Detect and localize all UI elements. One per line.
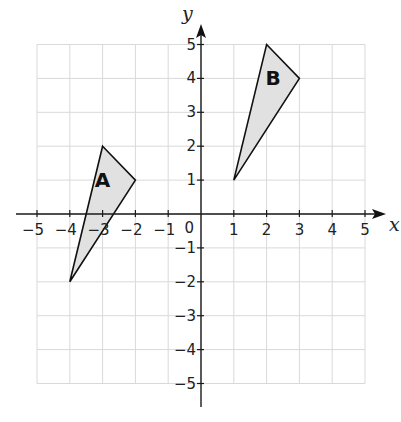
- y-tick-label: 5: [186, 36, 196, 54]
- x-axis-label: x: [389, 213, 400, 235]
- x-tick-label: 4: [327, 221, 337, 239]
- y-tick-label: −2: [174, 273, 196, 291]
- y-tick-label: −1: [174, 239, 196, 257]
- x-tick-label: −3: [88, 221, 110, 239]
- y-tick-label: 1: [186, 171, 196, 189]
- y-tick-label: −3: [174, 307, 196, 325]
- coordinate-plane: AB −5−4−3−2−112345−5−4−3−2−1123450xy: [0, 0, 401, 422]
- tick-labels: −5−4−3−2−112345−5−4−3−2−1123450xy: [22, 2, 400, 393]
- x-tick-label: 5: [360, 221, 370, 239]
- x-tick-label: 1: [229, 221, 239, 239]
- y-tick-label: 4: [186, 69, 196, 87]
- x-tick-label: −2: [120, 221, 142, 239]
- x-tick-label: 2: [262, 221, 272, 239]
- triangle-b-label: B: [266, 66, 281, 90]
- y-tick-label: −4: [174, 341, 196, 359]
- y-tick-label: −5: [174, 375, 196, 393]
- x-tick-label: −5: [22, 221, 44, 239]
- y-tick-label: 3: [186, 103, 196, 121]
- triangle-a-label: A: [95, 168, 111, 192]
- x-tick-label: −1: [153, 221, 175, 239]
- y-axis-label: y: [181, 2, 193, 24]
- x-tick-label: 3: [295, 221, 305, 239]
- origin-label: 0: [184, 219, 194, 237]
- y-tick-label: 2: [186, 137, 196, 155]
- x-tick-label: −4: [55, 221, 77, 239]
